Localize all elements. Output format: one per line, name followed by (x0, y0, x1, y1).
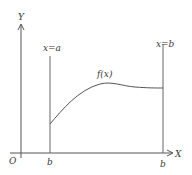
function-diagram: Y X O x=a b x=b b f(x) (0, 0, 192, 175)
line-b-label: x=b (156, 39, 175, 49)
vertical-line-a: x=a b (43, 43, 61, 167)
vertical-line-b: x=b b (156, 39, 175, 169)
x-axis: X (10, 149, 182, 159)
origin-label: O (9, 156, 17, 166)
x-axis-label: X (174, 149, 182, 159)
line-b-foot-label: b (160, 159, 166, 169)
curve-label: f(x) (96, 69, 113, 79)
curve-fx: f(x) (50, 69, 163, 124)
y-axis-label: Y (18, 12, 25, 22)
y-axis: Y (18, 12, 25, 158)
line-a-label: x=a (43, 43, 61, 53)
line-a-foot-label: b (47, 157, 53, 167)
